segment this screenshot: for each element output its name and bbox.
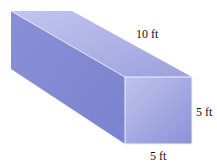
height-label: 5 ft: [196, 106, 212, 118]
prism-diagram: [0, 0, 217, 166]
front-face: [125, 77, 192, 144]
length-label: 10 ft: [136, 28, 158, 40]
width-label: 5 ft: [150, 150, 166, 162]
